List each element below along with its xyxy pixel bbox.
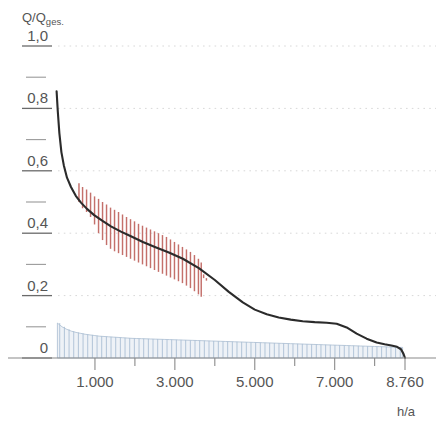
y-axis-tick-label: 1,0	[27, 27, 48, 44]
y-axis-tick-label: 0,8	[27, 89, 48, 106]
y-axis-title: Q/Qges.	[22, 10, 64, 27]
curve-group	[57, 91, 405, 358]
duration-curve-line	[57, 91, 405, 358]
x-axis-title: h/a	[397, 404, 416, 419]
chart-container: Q/Qges. 1,00,80,60,40,20 1.0003.0005.000…	[0, 0, 436, 430]
x-axis-tick-label: 5.000	[236, 373, 274, 390]
x-axis-tick-label: 8.760	[386, 373, 424, 390]
x-axis-tick-label: 1.000	[76, 373, 114, 390]
y-axis-tick-label: 0,4	[27, 214, 48, 231]
frequency-envelope	[57, 323, 402, 358]
y-axis-title-main: Q/Q	[22, 10, 46, 25]
x-axis-tick-label: 7.000	[316, 373, 354, 390]
y-axis-tick-label: 0,2	[27, 277, 48, 294]
error-bar-group	[79, 183, 206, 297]
x-axis: 1.0003.0005.0007.0008.760	[8, 358, 436, 390]
y-axis: 1,00,80,60,40,20	[22, 27, 52, 358]
gridlines	[58, 46, 436, 296]
x-axis-tick-label: 3.000	[156, 373, 194, 390]
y-axis-tick-label: 0	[40, 339, 48, 356]
frequency-bar-group	[57, 323, 402, 358]
y-axis-tick-label: 0,6	[27, 152, 48, 169]
y-axis-title-sub: ges.	[46, 16, 64, 27]
duration-curve-chart: Q/Qges. 1,00,80,60,40,20 1.0003.0005.000…	[0, 0, 436, 430]
